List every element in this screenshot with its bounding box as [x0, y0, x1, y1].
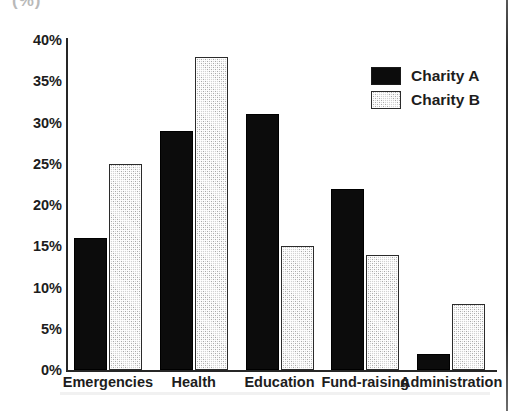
- bar-charity-b: [281, 246, 314, 370]
- bar-charity-a: [74, 238, 107, 370]
- bar-charity-b: [452, 304, 485, 370]
- legend-swatch-icon: [371, 91, 401, 109]
- bar-charity-b: [366, 255, 399, 371]
- x-axis-tick-label: Fund-raising: [321, 374, 409, 390]
- x-axis-tick-label: Education: [244, 374, 314, 390]
- bar-charity-a: [246, 114, 279, 370]
- y-axis-tick-label: 10%: [4, 280, 62, 296]
- legend-entry: Charity A: [371, 67, 480, 85]
- y-axis-tick-label: 20%: [4, 197, 62, 213]
- legend-label: Charity B: [411, 91, 480, 109]
- bar-charity-b: [195, 57, 228, 371]
- chart-legend: Charity ACharity B: [371, 67, 480, 109]
- bar-charity-a: [160, 131, 193, 370]
- y-axis-tick-label: 15%: [4, 238, 62, 254]
- y-axis-tick-label: 35%: [4, 73, 62, 89]
- y-axis-tick-label: 5%: [4, 321, 62, 337]
- bar-chart: (%) 40%35%30%25%20%15%10%5%0% Emergencie…: [0, 0, 520, 411]
- x-axis-tick-label: Emergencies: [63, 374, 153, 390]
- legend-entry: Charity B: [371, 91, 480, 109]
- legend-swatch-icon: [371, 67, 401, 85]
- bar-charity-a: [331, 189, 364, 371]
- bar-group: [160, 40, 228, 370]
- bar-charity-b: [109, 164, 142, 370]
- bar-charity-a: [417, 354, 450, 371]
- y-axis-tick-label: 30%: [4, 115, 62, 131]
- scan-smudge: [60, 392, 490, 395]
- y-axis-tick-label: 25%: [4, 156, 62, 172]
- legend-label: Charity A: [411, 67, 479, 85]
- x-axis-tick-label: Health: [172, 374, 216, 390]
- x-axis-tick-labels: EmergenciesHealthEducationFund-raisingAd…: [0, 372, 520, 402]
- page-edge-line: [506, 0, 508, 411]
- y-axis-tick-label: 40%: [4, 32, 62, 48]
- bar-group: [246, 40, 314, 370]
- x-axis-tick-label: Administration: [400, 374, 502, 390]
- y-axis-tick-labels: 40%35%30%25%20%15%10%5%0%: [0, 0, 62, 411]
- bar-group: [74, 40, 142, 370]
